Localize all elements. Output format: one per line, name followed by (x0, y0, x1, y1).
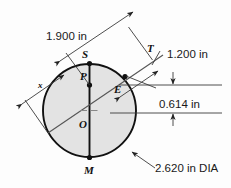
point-label-E: E (113, 83, 121, 95)
drawing-canvas: 1.900 in 1.200 in 0.614 in 2.620 in DIA … (0, 0, 231, 188)
dimension-label-x: x (37, 80, 43, 90)
point-marker-M (87, 155, 92, 160)
dimension-label-0614: 0.614 in (159, 98, 200, 110)
dimension-label-diameter: 2.620 in DIA (155, 162, 219, 174)
dimension-label-1900: 1.900 in (46, 30, 87, 42)
technical-drawing-figure: 1.900 in 1.200 in 0.614 in 2.620 in DIA … (0, 0, 231, 188)
point-marker-S (87, 61, 92, 66)
point-label-P: P (80, 70, 87, 82)
point-label-M: M (83, 164, 95, 176)
point-label-T: T (147, 42, 155, 54)
extension-line-from-E (126, 76, 156, 88)
dimension-label-1200: 1.200 in (167, 48, 208, 60)
leader-line-diameter (132, 152, 155, 168)
point-label-O: O (79, 118, 87, 130)
point-label-S: S (82, 48, 88, 60)
